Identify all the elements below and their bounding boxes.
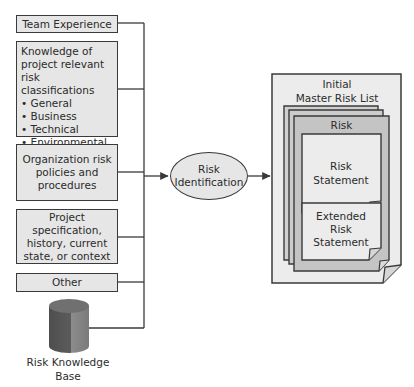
extended-risk-statement-label: Extended Risk Statement — [302, 210, 380, 249]
knowledge-title-line: project relevant risk — [21, 58, 117, 84]
database-icon — [48, 298, 90, 354]
classification-item: Business — [21, 110, 117, 123]
extended-risk-statement-line: Risk — [302, 223, 380, 236]
organization-line: procedures — [38, 179, 97, 192]
database-label: Risk Knowledge Base — [20, 355, 116, 383]
knowledge-title-line: classifications — [21, 84, 117, 97]
other-label: Other — [52, 276, 82, 289]
organization-box: Organization risk policies and procedure… — [16, 144, 118, 201]
risk-identification-process: Risk Identification — [170, 152, 248, 200]
risk-statement-label: Risk Statement — [302, 159, 380, 187]
risk-statement-line: Risk — [302, 159, 380, 173]
organization-line: policies and — [36, 166, 99, 179]
master-list-title-line: Initial — [272, 77, 402, 91]
risk-statement-line: Statement — [302, 173, 380, 187]
team-experience-label: Team Experience — [22, 18, 112, 31]
project-line: specification, — [32, 224, 102, 237]
classification-list: General Business Technical Environmental — [21, 97, 117, 149]
project-line: history, current — [27, 237, 108, 250]
classification-item: Technical — [21, 123, 117, 136]
organization-line: Organization risk — [22, 153, 111, 166]
extended-risk-statement-line: Statement — [302, 236, 380, 249]
other-box: Other — [16, 273, 118, 292]
knowledge-box: Knowledge of project relevant risk class… — [16, 41, 118, 137]
database-label-line: Base — [20, 369, 116, 383]
team-experience-box: Team Experience — [16, 15, 118, 33]
project-line: state, or context — [24, 250, 111, 263]
risk-card-header: Risk — [294, 118, 389, 132]
process-line: Risk — [198, 163, 220, 176]
database-label-line: Risk Knowledge — [20, 355, 116, 369]
process-line: Identification — [175, 176, 244, 189]
master-list-title: Initial Master Risk List — [272, 77, 402, 105]
classification-item: General — [21, 97, 117, 110]
project-box: Project specification, history, current … — [16, 209, 118, 264]
extended-risk-statement-line: Extended — [302, 210, 380, 223]
knowledge-title-line: Knowledge of — [21, 45, 117, 58]
project-line: Project — [49, 211, 85, 224]
master-list-title-line: Master Risk List — [272, 91, 402, 105]
